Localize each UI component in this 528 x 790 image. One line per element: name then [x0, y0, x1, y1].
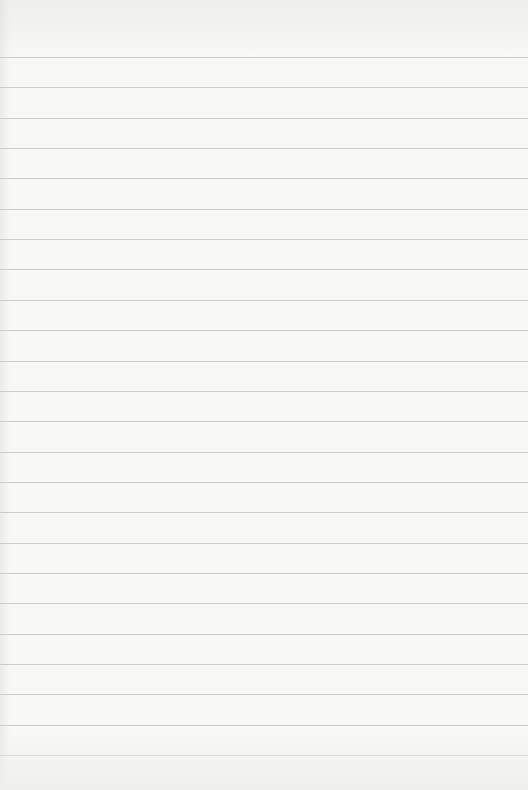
- ruled-line: [0, 573, 528, 574]
- ruled-line: [0, 512, 528, 513]
- ruled-line: [0, 755, 528, 756]
- ruled-line: [0, 300, 528, 301]
- ruled-line: [0, 239, 528, 240]
- ruled-line: [0, 634, 528, 635]
- ruled-line: [0, 330, 528, 331]
- ruled-line: [0, 603, 528, 604]
- ruled-line: [0, 148, 528, 149]
- ruled-line: [0, 543, 528, 544]
- ruled-line: [0, 664, 528, 665]
- ruled-line: [0, 269, 528, 270]
- ruled-line: [0, 57, 528, 58]
- ruled-line: [0, 87, 528, 88]
- ruled-line: [0, 725, 528, 726]
- ruled-line: [0, 209, 528, 210]
- ruled-line: [0, 178, 528, 179]
- ruled-line: [0, 694, 528, 695]
- lined-paper-sheet: [0, 0, 528, 790]
- ruled-line: [0, 482, 528, 483]
- ruled-line: [0, 391, 528, 392]
- ruled-line: [0, 452, 528, 453]
- ruled-line: [0, 118, 528, 119]
- ruled-line: [0, 361, 528, 362]
- ruled-line: [0, 421, 528, 422]
